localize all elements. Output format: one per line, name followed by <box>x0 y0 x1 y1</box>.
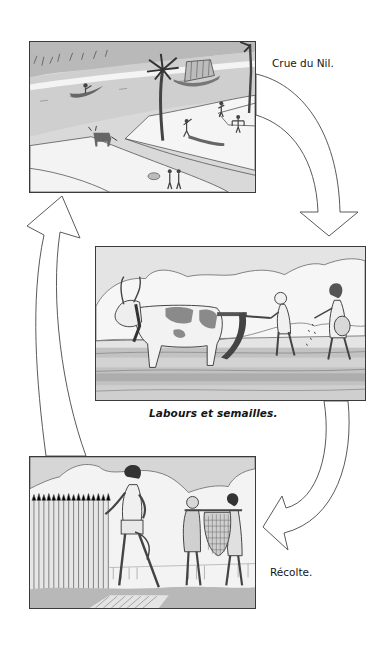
plough-illustration <box>96 247 365 400</box>
agricultural-cycle-diagram: Crue du Nil. Labours et semailles. Récol… <box>0 0 383 646</box>
flood-illustration <box>30 42 255 192</box>
caption-harvest: Récolte. <box>270 566 312 578</box>
caption-ploughing-sowing: Labours et semailles. <box>149 407 278 419</box>
panel-harvest <box>29 456 256 609</box>
arrow-harvest-to-flood <box>27 196 86 456</box>
arrow-flood-to-plough <box>256 74 358 236</box>
panel-nile-flood <box>29 41 256 193</box>
caption-nile-flood: Crue du Nil. <box>272 57 334 69</box>
panel-ploughing-sowing <box>95 246 366 401</box>
harvest-illustration <box>30 457 255 608</box>
arrow-plough-to-harvest <box>263 401 349 550</box>
